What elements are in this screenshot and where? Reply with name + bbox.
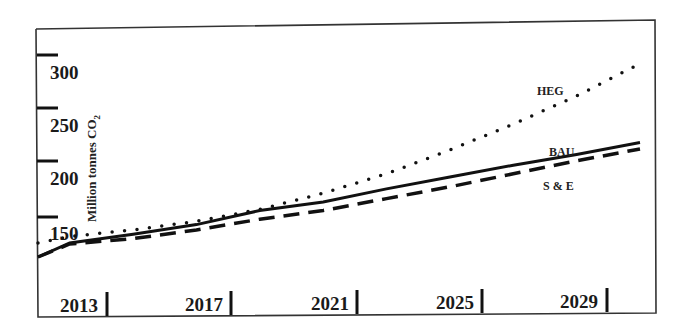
y-tick-250: 250 (50, 115, 79, 136)
y-tick-200: 200 (50, 168, 79, 189)
label-bau: BAU (549, 145, 575, 159)
series-s-e (38, 149, 640, 257)
x-tick-2029: 2029 (560, 291, 598, 312)
x-axis-ticks (107, 288, 607, 316)
y-tick-300: 300 (50, 62, 79, 83)
chart: 300 250 200 150 Million tonnes CO2 2013 … (0, 0, 684, 336)
x-axis-labels: 2013 2017 2021 2025 2029 (60, 291, 598, 316)
y-axis-title: Million tonnes CO2 (84, 114, 102, 222)
x-tick-2017: 2017 (185, 294, 224, 315)
x-tick-2013: 2013 (60, 295, 98, 316)
x-tick-2021: 2021 (311, 293, 349, 314)
label-heg: HEG (537, 84, 564, 98)
chart-frame (36, 20, 656, 317)
label-se: S & E (543, 179, 574, 193)
series-bau (38, 143, 640, 258)
x-tick-2025: 2025 (436, 292, 474, 313)
